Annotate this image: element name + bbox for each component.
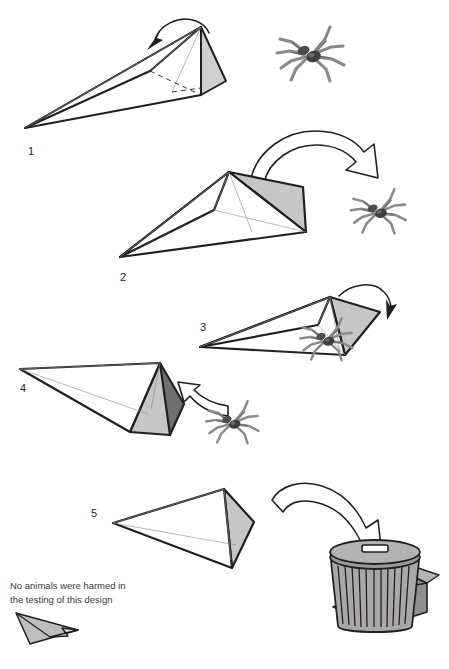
paper-plane-icon	[16, 613, 78, 644]
trash-can-icon	[330, 540, 420, 632]
step-2-hollow-arrow	[251, 131, 378, 182]
step-2-paper-plane	[120, 172, 306, 257]
step-3-group: 3	[200, 285, 397, 360]
spider-icon	[277, 27, 344, 81]
spider-icon	[351, 189, 406, 233]
step-4-hollow-arrow	[178, 382, 228, 416]
caption-line-2: the testing of this design	[10, 594, 112, 605]
step-1-paper-plane	[25, 27, 226, 128]
step-4-paper-plane	[20, 363, 184, 435]
step-4-number: 4	[20, 382, 26, 394]
caption-group: No animals were harmed in the testing of…	[10, 580, 126, 644]
caption-line-1: No animals were harmed in	[10, 580, 126, 591]
step-2-group: 2	[120, 131, 406, 283]
rubbish-scene	[330, 540, 439, 632]
step-3-number: 3	[200, 321, 206, 333]
step-5-number: 5	[91, 507, 97, 519]
instruction-diagram: 1 2	[0, 0, 449, 669]
step-2-number: 2	[120, 271, 126, 283]
step-3-paper-plane	[200, 297, 380, 355]
step-5-paper-plane	[113, 489, 254, 568]
step-4-group: 4	[20, 363, 259, 443]
step-1-number: 1	[28, 145, 34, 157]
